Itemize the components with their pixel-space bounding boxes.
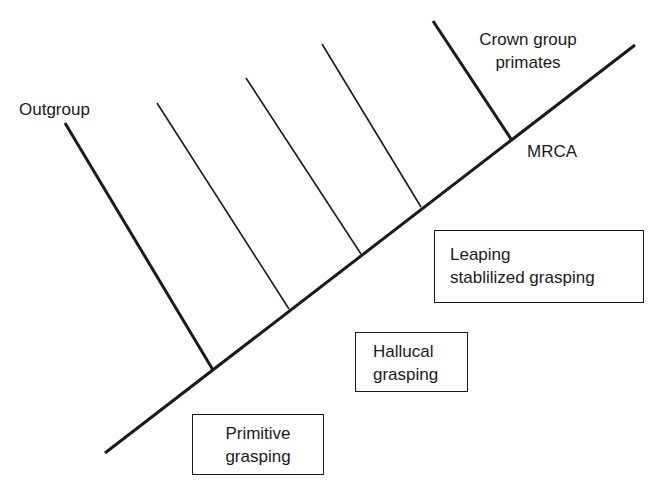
crown-group-label: Crown group primates (468, 28, 588, 74)
stem-branch-1-line (157, 103, 289, 309)
primitive-grasping-box: Primitive grasping (192, 414, 324, 475)
leaping-stabilized-grasping-box: Leaping stablilized grasping (434, 230, 644, 303)
stem-branch-2-line (246, 78, 361, 254)
crown-group-label-line2: primates (468, 51, 588, 74)
cladogram-diagram: Outgroup Crown group primates MRCA Leapi… (0, 0, 662, 499)
primitive-box-line1: Primitive (193, 422, 323, 445)
hallucal-box-line2: grasping (373, 363, 467, 386)
leaping-box-line1: Leaping (450, 243, 643, 266)
hallucal-box-line1: Hallucal (373, 340, 467, 363)
crown-group-label-line1: Crown group (468, 28, 588, 51)
hallucal-grasping-box: Hallucal grasping (355, 332, 468, 392)
leaping-box-line2: stablilized grasping (450, 266, 643, 289)
outgroup-label: Outgroup (19, 98, 90, 121)
mrca-label: MRCA (527, 140, 577, 163)
outgroup-branch-line (65, 123, 213, 370)
primitive-box-line2: grasping (193, 445, 323, 468)
stem-branch-3-line (322, 44, 421, 207)
